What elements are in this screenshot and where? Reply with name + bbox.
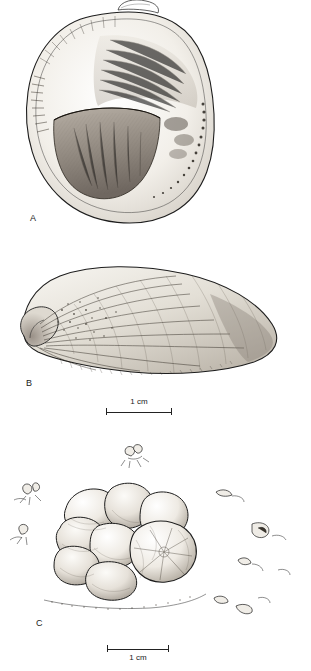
panel-c-illustration (0, 440, 311, 640)
scale-bar-b-label: 1 cm (106, 397, 172, 406)
panel-label-a: A (30, 213, 36, 223)
scale-bar-b: 1 cm (106, 408, 172, 415)
scale-bar-c-label: 1 cm (107, 653, 169, 662)
scale-bar-c: 1 cm (107, 645, 169, 652)
panel-b-illustration (0, 258, 311, 398)
panel-label-c: C (36, 618, 43, 628)
panel-a-illustration (0, 0, 311, 232)
figure-plate: A (0, 0, 311, 671)
panel-label-b: B (26, 378, 32, 388)
